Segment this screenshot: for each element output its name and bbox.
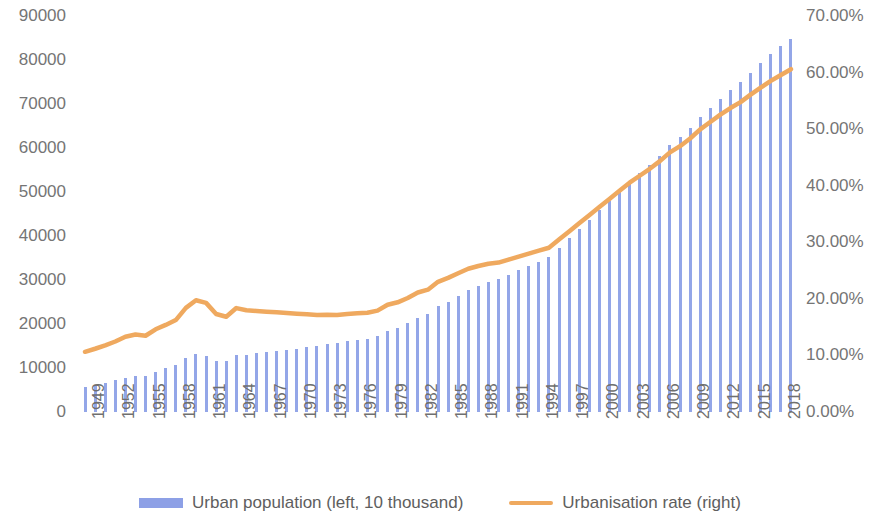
x-axis-tick: 1964 — [242, 383, 258, 419]
combo-chart: 0100002000030000400005000060000700008000… — [0, 0, 880, 518]
x-axis-tick: 2000 — [605, 383, 621, 419]
x-axis-tick: 1988 — [484, 383, 500, 419]
y-axis-right-tick: 60.00% — [806, 64, 880, 81]
x-axis-tick: 2003 — [636, 383, 652, 419]
y-axis-left-tick: 60000 — [0, 139, 66, 156]
x-axis-tick: 1958 — [182, 383, 198, 419]
y-axis-left-tick: 30000 — [0, 271, 66, 288]
y-axis-left-tick: 0 — [0, 403, 66, 420]
legend-label-urban-population: Urban population (left, 10 thousand) — [192, 493, 463, 513]
x-axis-tick: 1949 — [91, 383, 107, 419]
plot-area — [80, 16, 796, 412]
urbanisation-rate-polyline — [85, 69, 791, 352]
x-axis-tick: 1961 — [212, 383, 228, 419]
y-axis-right-tick: 70.00% — [806, 7, 880, 24]
y-axis-left-tick: 90000 — [0, 7, 66, 24]
x-axis-tick: 1997 — [575, 383, 591, 419]
x-axis-tick: 1985 — [454, 383, 470, 419]
y-axis-right-tick: 10.00% — [806, 346, 880, 363]
y-axis-left-tick: 80000 — [0, 51, 66, 68]
x-axis-tick: 1967 — [273, 383, 289, 419]
x-axis-tick: 1955 — [152, 383, 168, 419]
line-swatch-icon — [509, 501, 553, 505]
y-axis-right-tick: 0.00% — [806, 403, 880, 420]
y-axis-left-tick: 50000 — [0, 183, 66, 200]
y-axis-left-tick: 20000 — [0, 315, 66, 332]
line-series-urbanisation-rate — [80, 16, 796, 412]
x-axis-tick: 1976 — [363, 383, 379, 419]
x-axis-tick: 1979 — [394, 383, 410, 419]
y-axis-left-tick: 10000 — [0, 359, 66, 376]
legend-item-urban-population[interactable]: Urban population (left, 10 thousand) — [139, 493, 463, 513]
legend-item-urbanisation-rate[interactable]: Urbanisation rate (right) — [509, 493, 741, 513]
chart-legend: Urban population (left, 10 thousand) Urb… — [0, 488, 880, 518]
x-axis-tick: 2018 — [787, 383, 803, 419]
x-axis-tick: 1973 — [333, 383, 349, 419]
x-axis-tick: 1994 — [545, 383, 561, 419]
y-axis-left-tick: 70000 — [0, 95, 66, 112]
y-axis-right-tick: 50.00% — [806, 120, 880, 137]
x-axis-tick: 1952 — [121, 383, 137, 419]
y-axis-right-tick: 40.00% — [806, 177, 880, 194]
x-axis-tick: 2009 — [696, 383, 712, 419]
legend-label-urbanisation-rate: Urbanisation rate (right) — [562, 493, 741, 513]
y-axis-right-tick: 30.00% — [806, 233, 880, 250]
x-axis-tick: 2015 — [757, 383, 773, 419]
x-axis-tick: 1982 — [424, 383, 440, 419]
y-axis-left-tick: 40000 — [0, 227, 66, 244]
bar-swatch-icon — [139, 498, 183, 508]
x-axis-tick: 2012 — [726, 383, 742, 419]
x-axis-tick: 1970 — [303, 383, 319, 419]
x-axis-tick: 2006 — [666, 383, 682, 419]
x-axis-tick: 1991 — [515, 383, 531, 419]
y-axis-right-tick: 20.00% — [806, 290, 880, 307]
